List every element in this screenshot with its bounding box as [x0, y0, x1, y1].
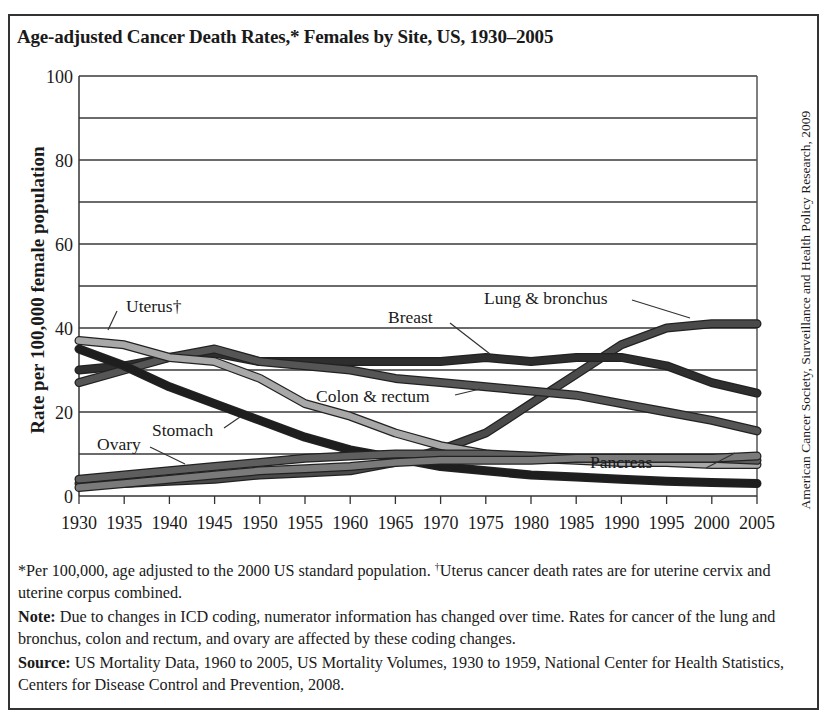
x-tick-label: 1950: [242, 513, 278, 533]
x-tick-label: 1955: [287, 513, 323, 533]
x-tick-label: 1965: [377, 513, 413, 533]
y-tick-label: 20: [55, 403, 73, 423]
y-tick-label: 100: [46, 67, 73, 87]
footnotes: *Per 100,000, age adjusted to the 2000 U…: [18, 556, 808, 698]
leader-line: [224, 417, 240, 428]
x-tick-label: 1935: [106, 513, 142, 533]
series-annotation: Stomach: [152, 420, 213, 440]
series-annotation: Uterus†: [126, 296, 182, 316]
leader-line: [150, 447, 185, 464]
series-annotation: Pancreas: [590, 452, 652, 472]
y-tick-label: 80: [55, 151, 73, 171]
footnote-note: Note: Due to changes in ICD coding, nume…: [18, 606, 808, 650]
leader-line: [632, 300, 690, 318]
x-tick-label: 1945: [197, 513, 233, 533]
x-tick-label: 1940: [151, 513, 187, 533]
series-annotation: Colon & rectum: [316, 386, 430, 406]
x-tick-label: 1960: [332, 513, 368, 533]
leader-line: [455, 389, 480, 395]
x-tick-label: 1995: [649, 513, 685, 533]
x-tick-label: 2005: [739, 513, 775, 533]
series-annotation: Ovary: [97, 434, 141, 454]
y-tick-label: 40: [55, 319, 73, 339]
x-tick-label: 1980: [513, 513, 549, 533]
x-tick-label: 1990: [603, 513, 639, 533]
y-tick-label: 60: [55, 235, 73, 255]
x-tick-label: 1930: [61, 513, 97, 533]
footnote-source: Source: US Mortality Data, 1960 to 2005,…: [18, 652, 808, 696]
x-tick-label: 2000: [694, 513, 730, 533]
series-annotation: Breast: [388, 307, 433, 327]
footnote-asterisk: *Per 100,000, age adjusted to the 2000 U…: [18, 556, 808, 604]
x-tick-label: 1970: [423, 513, 459, 533]
series-annotation: Lung & bronchus: [484, 288, 608, 308]
x-tick-label: 1975: [468, 513, 504, 533]
y-tick-label: 0: [64, 487, 73, 507]
leader-line: [108, 311, 117, 330]
x-tick-label: 1985: [558, 513, 594, 533]
